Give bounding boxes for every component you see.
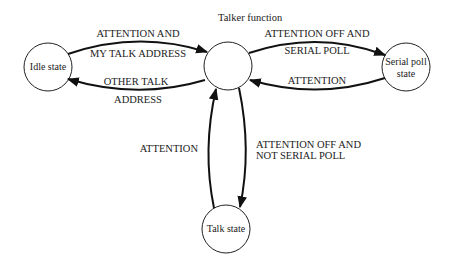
label-talker-to-talk-1: ATTENTION OFF AND (256, 139, 361, 150)
arrow-talker-to-talk (239, 88, 246, 207)
talker-function-node (204, 42, 252, 90)
label-talker-to-talk-2: NOT SERIAL POLL (256, 150, 345, 161)
label-serial-to-talker: ATTENTION (288, 75, 347, 86)
label-talker-to-idle-2: ADDRESS (114, 94, 162, 105)
label-talker-to-serial-1: ATTENTION OFF AND (265, 28, 370, 39)
label-talk-to-talker: ATTENTION (140, 143, 199, 154)
serial-poll-label-line1: Serial poll (385, 56, 427, 67)
diagram-title: Talker function (218, 12, 283, 23)
serial-poll-state-node: Serial poll state (382, 43, 430, 91)
talk-state-label: Talk state (207, 223, 246, 234)
idle-state-node: Idle state (24, 43, 72, 91)
talk-state-node: Talk state (202, 205, 250, 253)
state-diagram: Talker function Idle state Serial poll s… (0, 0, 450, 263)
label-talker-to-serial-2: SERIAL POLL (284, 45, 349, 56)
label-talker-to-idle-1: OTHER TALK (104, 76, 169, 87)
arrow-talk-to-talker (208, 89, 216, 208)
label-idle-to-talker-2: MY TALK ADDRESS (90, 48, 186, 59)
idle-state-label: Idle state (30, 61, 67, 72)
label-idle-to-talker-1: ATTENTION AND (96, 28, 180, 39)
serial-poll-label-line2: state (397, 68, 416, 79)
